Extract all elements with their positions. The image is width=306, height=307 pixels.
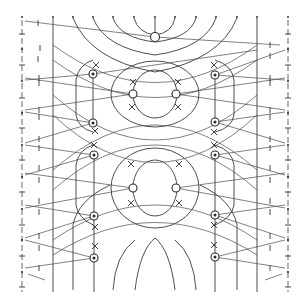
node-left-5-icon — [90, 254, 98, 262]
node-center-upper-left-icon — [129, 90, 137, 98]
node-right-5-icon — [211, 253, 219, 261]
node-top-center-icon — [151, 33, 160, 42]
node-right-1-icon — [211, 71, 219, 79]
node-right-3-icon — [211, 151, 219, 159]
node-center-lower-left-icon — [129, 184, 137, 192]
node-right-2-icon — [211, 118, 219, 126]
node-center-upper-right-icon — [172, 90, 180, 98]
node-right-4-icon — [211, 211, 219, 219]
radiating-lines — [25, 21, 285, 280]
edge-columns — [22, 18, 288, 292]
pattern-diagram — [0, 0, 306, 307]
node-left-1-icon — [89, 70, 97, 78]
node-left-2-icon — [89, 119, 97, 127]
lower-arcs — [73, 185, 237, 290]
node-left-4-icon — [90, 212, 98, 220]
node-left-3-icon — [90, 151, 98, 159]
side-frames — [76, 60, 234, 292]
node-center-lower-right-icon — [172, 184, 180, 192]
center-ovals — [111, 61, 199, 228]
top-dot-row — [21, 16, 289, 18]
